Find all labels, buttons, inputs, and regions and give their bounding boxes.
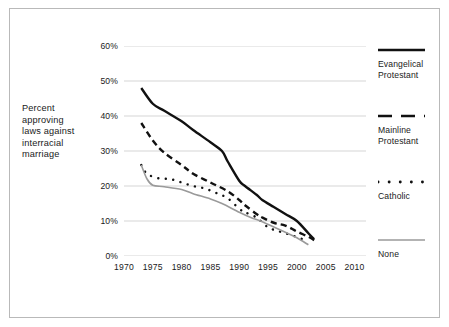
plot-svg xyxy=(124,46,366,256)
x-axis-tick-2010: 2010 xyxy=(334,262,374,272)
legend-item-none[interactable]: None xyxy=(378,234,438,260)
legend-label-none: None xyxy=(378,249,438,260)
y-axis-tick-10: 10% xyxy=(88,216,118,226)
series-line-evangelical-protestant xyxy=(141,88,314,239)
legend-label-line-1: None xyxy=(378,249,438,260)
legend-label-line-1: Evangelical xyxy=(378,59,438,70)
series-line-catholic xyxy=(141,165,308,241)
y-axis-title-line-4: interracial xyxy=(22,138,98,150)
series-line-none xyxy=(141,165,308,245)
legend-item-evangelical-protestant[interactable]: Evangelical Protestant xyxy=(378,44,438,81)
y-axis-title-line-1: Percent xyxy=(22,103,98,115)
legend-item-catholic[interactable]: Catholic xyxy=(378,176,438,202)
series-line-mainline-protestant xyxy=(141,123,314,240)
plot-area xyxy=(124,46,366,256)
legend-label-mainline-protestant: Mainline Protestant xyxy=(378,125,438,147)
y-axis-tick-0: 0% xyxy=(88,251,118,261)
chart-figure: Percent approving laws against interraci… xyxy=(0,0,449,327)
legend-label-line-2: Protestant xyxy=(378,136,438,147)
y-axis-tick-60: 60% xyxy=(88,41,118,51)
gridlines xyxy=(124,46,366,256)
legend-swatch-thin-line-icon xyxy=(378,234,425,246)
y-axis-title-line-3: laws against xyxy=(22,126,98,138)
legend-swatch-dotted-icon xyxy=(378,176,425,188)
y-axis-tick-50: 50% xyxy=(88,76,118,86)
legend-label-catholic: Catholic xyxy=(378,191,438,202)
legend-swatch-solid-icon xyxy=(378,44,425,56)
y-axis-title-line-5: marriage xyxy=(22,149,98,161)
y-axis-tick-40: 40% xyxy=(88,111,118,121)
legend-item-mainline-protestant[interactable]: Mainline Protestant xyxy=(378,110,438,147)
y-axis-title-line-2: approving xyxy=(22,115,98,127)
legend-label-line-1: Catholic xyxy=(378,191,438,202)
legend-label-line-2: Protestant xyxy=(378,70,438,81)
legend-label-evangelical-protestant: Evangelical Protestant xyxy=(378,59,438,81)
legend-swatch-dashed-icon xyxy=(378,110,425,122)
legend-label-line-1: Mainline xyxy=(378,125,438,136)
y-axis-title: Percent approving laws against interraci… xyxy=(22,103,98,161)
y-axis-tick-20: 20% xyxy=(88,181,118,191)
y-axis-tick-30: 30% xyxy=(88,146,118,156)
